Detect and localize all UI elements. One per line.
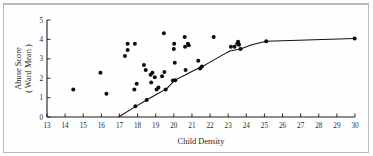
scatter-point: [126, 48, 130, 52]
x-tick-labels: 131415161718192021222324252627282930: [43, 122, 359, 130]
scatter-point: [172, 47, 176, 51]
scatter-point: [162, 70, 166, 74]
y-axis: 012345: [39, 17, 50, 122]
y-axis-title-line1: Abuse Score: [14, 47, 23, 90]
scatter-point: [142, 63, 146, 67]
scatter-point: [183, 45, 187, 49]
scatter-point: [237, 43, 241, 47]
scatter-point: [104, 92, 108, 96]
scatter-point: [173, 78, 177, 82]
x-tick-label: 15: [80, 122, 88, 130]
x-tick-label: 23: [225, 122, 233, 130]
x-axis: 131415161718192021222324252627282930: [43, 114, 359, 131]
scatter-point: [233, 45, 237, 49]
x-tick-label: 20: [170, 122, 178, 130]
scatter-point: [150, 71, 154, 75]
scatter-points: [71, 31, 356, 108]
x-tick-label: 25: [261, 122, 269, 130]
x-tick-label: 24: [243, 122, 251, 130]
x-tick-label: 19: [152, 122, 160, 130]
x-tick-label: 14: [62, 122, 70, 130]
scatter-point: [187, 43, 191, 47]
scatter-point: [135, 82, 139, 86]
scatter-point: [145, 98, 149, 102]
chart-figure: 131415161718192021222324252627282930 012…: [0, 0, 373, 156]
y-tick-label: 1: [39, 94, 43, 102]
y-tick-label: 5: [39, 17, 43, 25]
y-tick-labels: 012345: [39, 17, 43, 122]
x-tick-label: 17: [116, 122, 124, 130]
scatter-point: [183, 35, 187, 39]
scatter-point: [184, 68, 188, 72]
scatter-point: [173, 61, 177, 65]
x-tick-label: 21: [188, 122, 196, 130]
x-tick-label: 16: [98, 122, 106, 130]
scatter-point: [144, 68, 148, 72]
scatter-point: [264, 39, 268, 43]
scatter-point: [156, 86, 160, 90]
scatter-point: [133, 104, 137, 108]
x-tick-label: 30: [351, 122, 359, 130]
scatter-point: [229, 45, 233, 49]
scatter-plot-svg: 131415161718192021222324252627282930 012…: [0, 0, 373, 156]
scatter-point: [160, 74, 164, 78]
plot-area: 131415161718192021222324252627282930 012…: [0, 0, 373, 156]
scatter-point: [149, 80, 153, 84]
scatter-point: [123, 54, 127, 58]
y-tick-label: 2: [39, 75, 43, 83]
x-tick-label: 13: [43, 122, 51, 130]
x-axis-title: Child Density: [178, 137, 226, 146]
y-tick-label: 3: [39, 55, 43, 63]
y-tick-label: 4: [39, 36, 43, 44]
scatter-point: [353, 36, 357, 40]
x-tick-label: 18: [134, 122, 142, 130]
scatter-point: [132, 87, 136, 91]
y-tick-label: 0: [39, 114, 43, 122]
scatter-point: [239, 47, 243, 51]
scatter-point: [164, 87, 168, 91]
x-tick-label: 22: [206, 122, 214, 130]
y-axis-title-line2: ( Ward Mean ): [24, 44, 33, 93]
x-tick-label: 26: [279, 122, 287, 130]
scatter-point: [212, 35, 216, 39]
x-tick-label: 29: [333, 122, 341, 130]
scatter-point: [196, 59, 200, 63]
scatter-point: [71, 87, 75, 91]
scatter-point: [172, 42, 176, 46]
scatter-point: [133, 42, 137, 46]
scatter-point: [98, 71, 102, 75]
scatter-point: [200, 65, 204, 69]
scatter-point: [162, 31, 166, 35]
scatter-point: [126, 42, 130, 46]
x-tick-label: 28: [315, 122, 323, 130]
scatter-point: [153, 75, 157, 79]
x-tick-label: 27: [297, 122, 305, 130]
